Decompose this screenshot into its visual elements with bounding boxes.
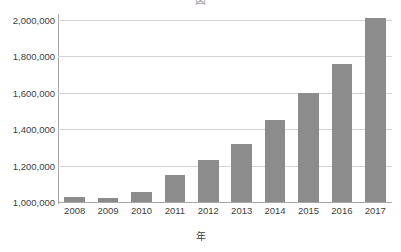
bar <box>64 197 85 202</box>
y-axis-tick-label: 1,400,000 <box>1 124 55 135</box>
x-axis-tick-label: 2010 <box>131 205 152 216</box>
bar <box>131 192 152 202</box>
bar <box>165 175 186 202</box>
bar <box>265 120 286 202</box>
x-axis-tick-labels: 2008200920102011201220132014201520162017 <box>58 205 392 221</box>
y-axis-tick-label: 2,000,000 <box>1 15 55 26</box>
x-axis-tick-label: 2012 <box>198 205 219 216</box>
y-axis-tick-labels: 1,000,0001,200,0001,400,0001,600,0001,80… <box>0 20 55 202</box>
y-axis-tick-label: 1,000,000 <box>1 197 55 208</box>
x-axis-tick-label: 2016 <box>331 205 352 216</box>
gridline <box>58 202 392 203</box>
bar <box>365 18 386 202</box>
x-axis-tick-label: 2014 <box>265 205 286 216</box>
x-axis-tick-label: 2017 <box>365 205 386 216</box>
bar-chart: 図 1,000,0001,200,0001,400,0001,600,0001,… <box>0 0 401 252</box>
x-axis-title: 年 <box>0 228 401 243</box>
x-axis-tick-label: 2008 <box>64 205 85 216</box>
gridline <box>58 20 392 21</box>
chart-title: 図 <box>0 0 401 7</box>
y-axis-tick-label: 1,600,000 <box>1 87 55 98</box>
bar <box>298 93 319 202</box>
plot-area <box>58 20 392 202</box>
y-axis-tick-label: 1,200,000 <box>1 160 55 171</box>
x-axis-tick-label: 2015 <box>298 205 319 216</box>
bar <box>98 198 119 202</box>
bar <box>198 160 219 202</box>
x-axis-tick-label: 2011 <box>165 205 185 216</box>
gridline <box>58 56 392 57</box>
x-axis-tick-label: 2009 <box>98 205 119 216</box>
bar <box>332 64 353 202</box>
x-axis-tick-label: 2013 <box>231 205 252 216</box>
bar <box>231 144 252 202</box>
y-axis-tick-label: 1,800,000 <box>1 51 55 62</box>
